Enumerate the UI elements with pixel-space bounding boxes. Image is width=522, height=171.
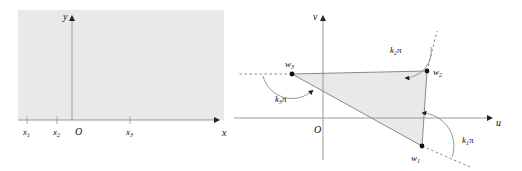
left-tick-label-x1: x1 — [22, 127, 30, 138]
right-origin-label: O — [314, 124, 321, 135]
right-vertex-dot-w3 — [290, 72, 295, 77]
right-vertex-dot-w2 — [425, 69, 430, 74]
figure-container: x1 x2 x3 O x y — [0, 0, 522, 171]
right-angle-label-k1: k1π — [462, 135, 474, 146]
left-x-axis-label: x — [221, 127, 227, 138]
left-shaded-half-plane — [18, 10, 224, 120]
right-v-axis-label: v — [313, 11, 318, 22]
left-origin-label: O — [75, 126, 82, 137]
left-tick-label-x3: x3 — [125, 127, 133, 138]
left-y-axis-label: y — [62, 11, 68, 22]
right-vertex-dot-w1 — [420, 144, 425, 149]
right-panel: w3 w2 w1 k3π k2π k1π O u v — [234, 11, 501, 167]
right-shaded-polygon — [292, 71, 427, 146]
right-dashed-ray-w1 — [422, 146, 470, 167]
right-vertex-label-w3: w3 — [285, 59, 294, 70]
right-vertex-label-w2: w2 — [433, 67, 442, 78]
right-u-axis-label: u — [496, 117, 501, 128]
left-tick-label-x2: x2 — [52, 127, 60, 138]
left-panel: x1 x2 x3 O x y — [18, 10, 227, 138]
right-angle-label-k2: k2π — [390, 45, 402, 56]
figure-svg: x1 x2 x3 O x y — [0, 0, 522, 171]
right-angle-label-k3: k3π — [275, 94, 287, 105]
right-dashed-ray-w2 — [427, 31, 437, 71]
right-angle-arc-k1 — [422, 113, 454, 157]
right-vertex-label-w1: w1 — [411, 153, 420, 164]
